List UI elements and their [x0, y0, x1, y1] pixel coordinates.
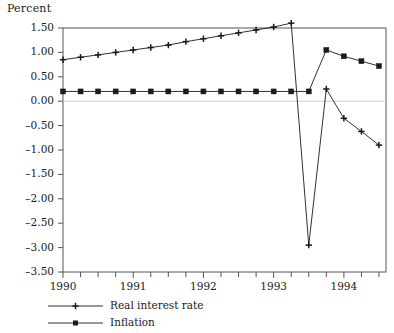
legend-markers: [0, 0, 394, 333]
legend-label: Inflation: [110, 316, 155, 328]
plus-marker: [72, 303, 78, 309]
legend-label: Real interest rate: [110, 299, 204, 311]
square-marker: [73, 321, 78, 326]
percent-line-chart: Percent 1.501.000.500.00–0.50–1.00–1.50–…: [0, 0, 394, 333]
